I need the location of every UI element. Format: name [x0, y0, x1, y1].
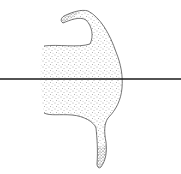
organ-body — [41, 10, 123, 167]
stippled-illustration — [0, 0, 181, 174]
stalk-tip-shading — [97, 144, 106, 168]
